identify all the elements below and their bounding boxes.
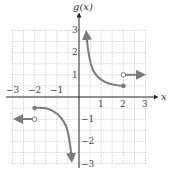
- open-circle-left: [32, 117, 37, 122]
- closed-circle-right: [121, 84, 126, 89]
- left-curve: [35, 108, 72, 158]
- y-tick-neg1: −1: [81, 114, 94, 124]
- x-tick-neg3: −3: [6, 85, 20, 95]
- x-tick-neg1: −1: [50, 85, 63, 95]
- x-tick-3: 3: [142, 99, 148, 109]
- x-tick-neg2: −2: [28, 85, 41, 95]
- y-tick-3: 3: [72, 25, 78, 35]
- y-tick-neg2: −2: [81, 136, 94, 146]
- x-axis-label: x: [161, 91, 167, 102]
- graph: x g(x) −3 −2 −1 1 2 3 3 2 1 −1 −2 −3: [0, 0, 173, 175]
- x-tick-2: 2: [120, 99, 126, 109]
- y-tick-2: 2: [72, 47, 78, 57]
- closed-circle-left: [32, 106, 37, 111]
- open-circle-right: [121, 73, 126, 78]
- y-tick-neg3: −3: [81, 159, 95, 169]
- right-curve: [87, 35, 124, 86]
- y-axis-label: g(x): [73, 1, 93, 12]
- y-tick-1: 1: [72, 70, 78, 80]
- x-tick-1: 1: [98, 99, 104, 109]
